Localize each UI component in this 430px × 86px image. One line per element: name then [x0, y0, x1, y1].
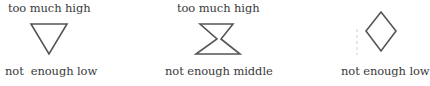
panel-1-bottom-label: not enough low — [5, 64, 97, 78]
panel-3-bottom-label: not enough low — [341, 64, 430, 78]
panel-2-bottom-label: not enough middle — [165, 64, 273, 78]
diamond-icon — [366, 12, 396, 51]
panel-2-top-label: too much high — [177, 1, 260, 15]
panel-1-top-label: too much high — [8, 1, 91, 15]
hourglass-icon — [196, 24, 240, 54]
inverted-triangle-icon — [31, 24, 67, 54]
